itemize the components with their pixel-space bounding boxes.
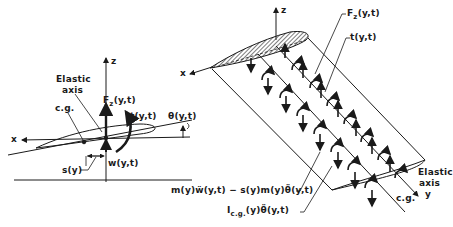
torque-label-right: t(y,t): [350, 33, 377, 42]
elastic-axis-label-right-2: axis: [419, 179, 440, 188]
z-axis-label-left: z: [111, 57, 116, 66]
cg-leader: [68, 113, 83, 140]
inertia-force-label: m(y)ẅ(y,t) − s(y)m(y)θ̈(y,t): [171, 186, 313, 195]
x-axis-right: [190, 67, 212, 74]
root-airfoil: [210, 31, 308, 68]
cg-label-left: c.g.: [55, 104, 74, 113]
elastic-axis-label-left-1: Elastic: [56, 75, 91, 84]
leading-edge: [212, 69, 332, 190]
tip-airfoil: [332, 160, 425, 190]
elastic-axis-label-left-2: axis: [62, 86, 83, 95]
x-axis-label-right: x: [180, 69, 186, 78]
cg-label-right: c.g.: [396, 194, 415, 203]
distributed-torques: [262, 62, 407, 188]
z-axis-label-right: z: [281, 6, 286, 15]
torque-leader: [325, 38, 350, 92]
elastic-axis-leader: [75, 94, 102, 132]
force-label-left: Fz(y,t): [103, 96, 136, 108]
elastic-axis-label-right-1: Elastic: [418, 168, 453, 177]
force-leader: [315, 14, 346, 74]
airfoil-section: [36, 124, 155, 148]
inertia-moment-label: Ic.g.(y)θ̈(y,t): [227, 206, 289, 218]
torque-label-left: t(y,t): [130, 112, 157, 121]
twist-label: θ(y,t): [168, 112, 197, 121]
y-axis-label-right: y: [425, 190, 431, 199]
x-axis-label-left: x: [11, 135, 17, 144]
deflection-label: w(y,t): [108, 159, 139, 168]
cg-point: [82, 140, 86, 144]
offset-leader: [80, 157, 96, 170]
section-view: [8, 58, 192, 182]
offset-label: s(y): [62, 166, 82, 175]
wing-view: [190, 8, 425, 212]
force-label-right: Fz(y,t): [347, 9, 380, 21]
